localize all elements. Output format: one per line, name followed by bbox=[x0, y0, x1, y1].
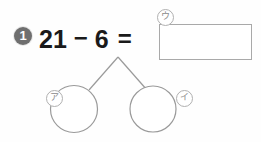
equation-expression: 21 − 6 = bbox=[39, 24, 132, 54]
worksheet-canvas: 1 21 − 6 = ウ ア イ bbox=[0, 0, 261, 142]
problem-number-badge: 1 bbox=[14, 27, 32, 45]
branch-line-left bbox=[89, 57, 118, 90]
equals-operator-icon: = bbox=[118, 25, 132, 53]
answer-box-u[interactable] bbox=[159, 24, 252, 60]
kana-label-u-icon: ウ bbox=[157, 9, 174, 26]
kana-label-a-icon: ア bbox=[46, 90, 63, 107]
equation-right-operand: 6 bbox=[95, 25, 109, 54]
decomposition-diagram bbox=[0, 0, 261, 142]
kana-label-i-icon: イ bbox=[176, 90, 193, 107]
branch-line-right bbox=[118, 57, 147, 90]
equation-left-operand: 21 bbox=[39, 25, 67, 54]
minus-operator-icon: − bbox=[74, 24, 88, 52]
answer-circle-i[interactable] bbox=[130, 86, 176, 132]
